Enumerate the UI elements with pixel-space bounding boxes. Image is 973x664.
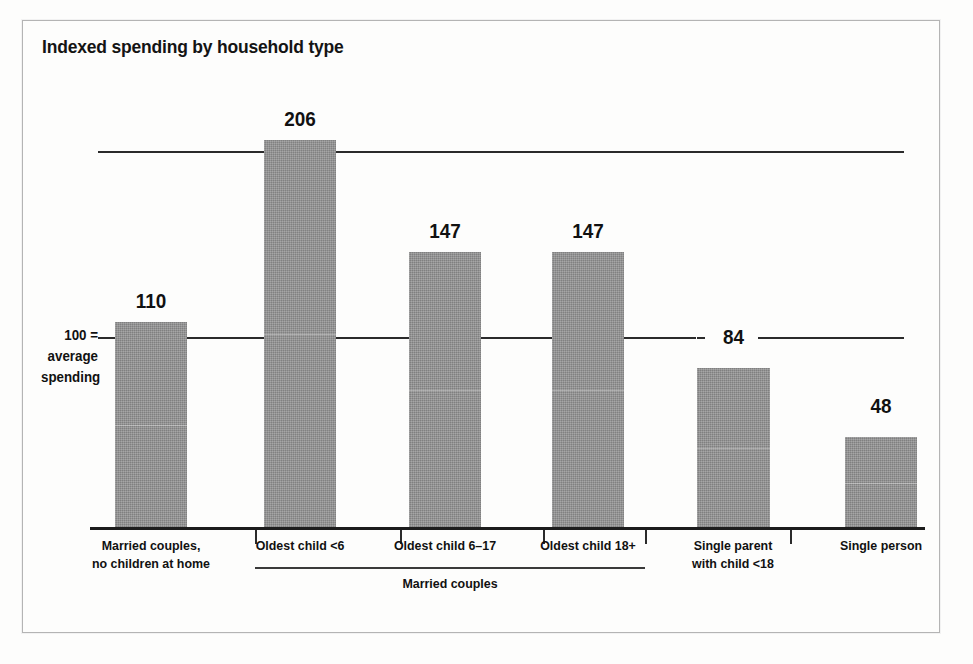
category-label-line1: Oldest child 6–17 [383,537,506,555]
bar-oldest-child-18-plus[interactable] [552,252,624,528]
category-label-single-person: Single person [819,537,942,555]
bar-value-label: 84 [701,325,767,349]
bar-value-label: 110 [119,289,184,313]
category-label-oldest-child-under-6: Oldest child <6 [238,537,361,555]
bar-value-label: 147 [413,219,478,243]
group-bracket-line [255,567,645,569]
category-label-line2: no children at home [89,555,212,573]
category-label-oldest-child-18-plus: Oldest child 18+ [526,537,649,555]
category-label-line1: Oldest child 18+ [526,537,649,555]
bar-value-label: 147 [556,219,621,243]
chart-page: Indexed spending by household type 100 =… [0,0,973,664]
bar-value-label: 48 [849,394,914,418]
category-label-line1: Married couples, [89,537,212,555]
y-axis-annotation-line3: spending [41,367,98,388]
y-axis-annotation-line1: 100 = [41,325,98,346]
category-label-single-parent-with-child: Single parent with child <18 [671,537,794,573]
category-label-line1: Single parent [671,537,794,555]
gridline-100-left [98,337,115,339]
bar-oldest-child-under-6[interactable] [264,140,336,528]
y-axis-annotation: 100 = average spending [41,325,98,388]
category-label-line2: with child <18 [671,555,794,573]
category-label-oldest-child-6-17: Oldest child 6–17 [383,537,506,555]
bar-oldest-child-6-17[interactable] [409,252,481,528]
category-label-line1: Oldest child <6 [238,537,361,555]
category-label-line1: Single person [819,537,942,555]
bar-value-label: 206 [268,107,333,131]
gridline-100-right [758,337,904,339]
axis-baseline [90,527,925,530]
category-label-married-couples-no-children: Married couples, no children at home [89,537,212,573]
bar-single-parent-with-child[interactable] [697,368,770,528]
bar-married-couples-no-children[interactable] [115,322,187,528]
plot-area: 100 = average spending 110 206 147 147 8… [0,0,973,664]
group-bracket-label: Married couples [271,576,630,591]
bar-single-person[interactable] [845,437,917,528]
gridline-200-left [98,151,264,153]
y-axis-annotation-line2: average [41,346,98,367]
gridline-200-right [336,151,904,153]
